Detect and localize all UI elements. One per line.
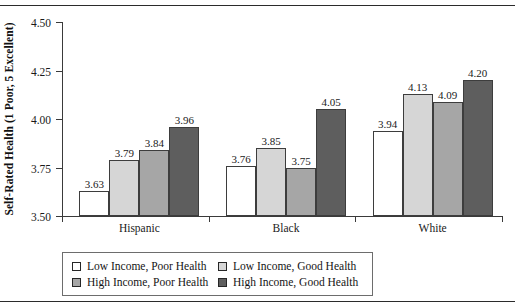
bar-value-label: 3.84 xyxy=(145,137,164,149)
legend-item-low-income-poor-health[interactable]: Low Income, Poor Health xyxy=(72,260,218,272)
bar-value-label: 3.96 xyxy=(175,114,194,126)
y-axis-tick-label: 3.50 xyxy=(31,211,51,223)
bar: 4.20 xyxy=(463,80,493,216)
legend-item-label: Low Income, Good Health xyxy=(233,260,356,272)
legend-row: Low Income, Poor Health Low Income, Good… xyxy=(72,258,364,274)
legend-item-label: High Income, Poor Health xyxy=(87,276,208,288)
figure-container: Self-Rated Health (1 Poor, 5 Excellent) … xyxy=(0,0,515,307)
y-axis-tick: 4.00 xyxy=(56,119,62,120)
legend-item-label: Low Income, Poor Health xyxy=(87,260,206,272)
bar-value-label: 4.09 xyxy=(438,89,457,101)
bar: 4.09 xyxy=(433,102,463,216)
y-axis-tick: 3.75 xyxy=(56,168,62,169)
legend-swatch-icon xyxy=(218,262,227,271)
y-axis-line xyxy=(62,22,63,216)
x-axis-tick xyxy=(355,216,356,222)
bar: 3.85 xyxy=(256,148,286,216)
x-axis-tick xyxy=(209,216,210,222)
bottom-rule xyxy=(0,301,515,302)
x-axis-line xyxy=(62,216,502,217)
y-axis-title: Self-Rated Health (1 Poor, 5 Excellent) xyxy=(3,22,15,215)
legend-item-low-income-good-health[interactable]: Low Income, Good Health xyxy=(218,260,364,272)
bar-value-label: 3.63 xyxy=(85,178,104,190)
plot-area: Self-Rated Health (1 Poor, 5 Excellent) … xyxy=(62,22,502,216)
bar: 3.94 xyxy=(373,131,403,216)
y-axis-tick: 4.25 xyxy=(56,71,62,72)
y-axis-tick-label: 4.00 xyxy=(31,114,51,126)
bar: 3.63 xyxy=(79,191,109,216)
bar-value-label: 4.13 xyxy=(408,81,427,93)
top-rule xyxy=(0,5,515,6)
legend-swatch-icon xyxy=(218,278,227,287)
x-axis-tick xyxy=(62,216,63,222)
bar: 4.13 xyxy=(403,94,433,216)
bar-value-label: 3.94 xyxy=(378,118,397,130)
legend-item-label: High Income, Good Health xyxy=(233,276,358,288)
y-axis-tick-label: 4.25 xyxy=(31,66,51,78)
bar: 4.05 xyxy=(316,109,346,216)
bar: 3.79 xyxy=(109,160,139,216)
bar-value-label: 3.85 xyxy=(261,135,280,147)
legend-swatch-icon xyxy=(72,262,81,271)
legend-swatch-icon xyxy=(72,278,81,287)
legend: Low Income, Poor Health Low Income, Good… xyxy=(62,252,373,296)
legend-row: High Income, Poor Health High Income, Go… xyxy=(72,274,364,290)
x-axis-category-label: Black xyxy=(273,222,300,234)
x-axis-tick xyxy=(502,216,503,222)
y-axis-tick-label: 3.75 xyxy=(31,163,51,175)
bar-value-label: 4.20 xyxy=(468,67,487,79)
legend-item-high-income-good-health[interactable]: High Income, Good Health xyxy=(218,276,364,288)
bar: 3.76 xyxy=(226,166,256,216)
bar-value-label: 3.79 xyxy=(115,147,134,159)
legend-item-high-income-poor-health[interactable]: High Income, Poor Health xyxy=(72,276,218,288)
y-axis-tick-label: 4.50 xyxy=(31,17,51,29)
bar: 3.84 xyxy=(139,150,169,216)
bar-value-label: 3.75 xyxy=(291,155,310,167)
x-axis-category-label: Hispanic xyxy=(119,222,160,234)
x-axis-category-label: White xyxy=(419,222,447,234)
bar: 3.75 xyxy=(286,168,316,217)
bar-value-label: 3.76 xyxy=(231,153,250,165)
bar: 3.96 xyxy=(169,127,199,216)
bar-value-label: 4.05 xyxy=(321,96,340,108)
y-axis-tick: 4.50 xyxy=(56,22,62,23)
